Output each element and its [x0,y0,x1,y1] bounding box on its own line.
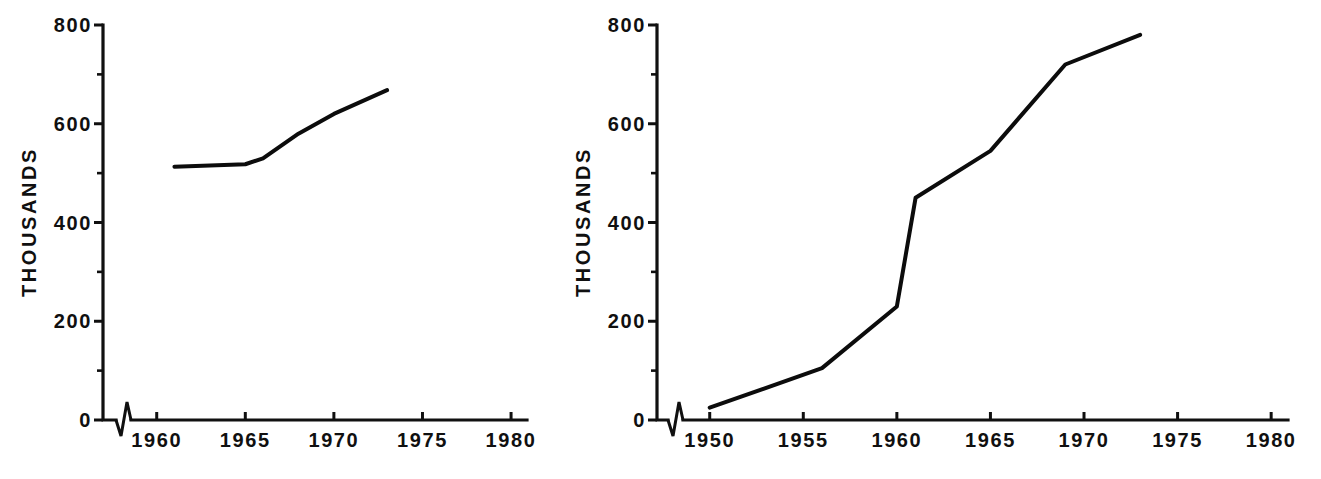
axis-break-icon [668,402,683,436]
chart-panel-right: 0200400600800195019551960196519701975198… [560,0,1321,479]
y-axis-line [103,25,116,420]
x-tick-label: 1950 [684,429,735,451]
y-tick-label: 0 [79,409,92,431]
x-tick-label: 1980 [486,429,537,451]
y-tick-label: 400 [608,212,646,234]
axis-break-icon [116,402,131,436]
x-tick-label: 1965 [220,429,271,451]
chart-panel-left: 020040060080019601965197019751980THOUSAN… [0,0,620,479]
figure-container: 020040060080019601965197019751980THOUSAN… [0,0,1321,479]
y-tick-label: 0 [633,409,646,431]
x-tick-label: 1980 [1246,429,1297,451]
data-series-line [174,90,387,167]
x-tick-label: 1960 [131,429,182,451]
x-tick-label: 1960 [871,429,922,451]
x-tick-label: 1955 [778,429,829,451]
left-chart-plot: 020040060080019601965197019751980THOUSAN… [0,0,620,479]
x-tick-label: 1970 [1059,429,1110,451]
x-tick-label: 1965 [965,429,1016,451]
y-axis-title: THOUSANDS [572,147,594,297]
y-tick-label: 800 [608,14,646,36]
y-axis-title: THOUSANDS [18,147,40,297]
y-tick-label: 800 [54,14,92,36]
y-axis-line [657,25,668,420]
x-tick-label: 1975 [1152,429,1203,451]
y-tick-label: 200 [54,310,92,332]
right-chart-plot: 0200400600800195019551960196519701975198… [560,0,1321,479]
y-tick-label: 600 [54,113,92,135]
data-series-line [710,35,1140,408]
x-tick-label: 1975 [397,429,448,451]
x-tick-label: 1970 [308,429,359,451]
y-tick-label: 400 [54,212,92,234]
y-tick-label: 600 [608,113,646,135]
y-tick-label: 200 [608,310,646,332]
